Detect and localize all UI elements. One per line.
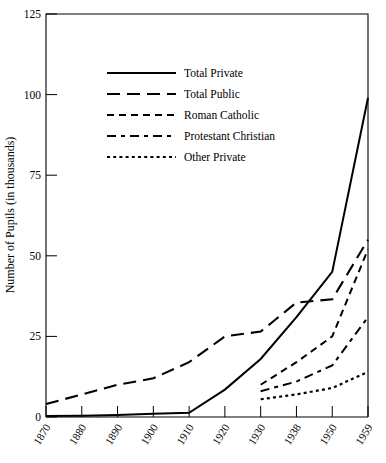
x-axis-ticks: 1870188018901900191019201930193819501959	[31, 406, 375, 447]
y-axis-ticks: 0255075100125	[24, 8, 57, 423]
legend-label-total-private: Total Private	[184, 67, 243, 79]
y-tick-label-50: 50	[30, 250, 42, 262]
x-tick-label-1900: 1900	[138, 421, 160, 446]
x-tick-label-1959: 1959	[353, 421, 375, 446]
legend-label-total-public: Total Public	[184, 88, 240, 100]
legend-label-other-private: Other Private	[184, 151, 246, 163]
x-tick-label-1910: 1910	[174, 421, 196, 446]
x-tick-label-1920: 1920	[210, 421, 232, 446]
series-line-total-private	[46, 98, 368, 416]
y-tick-label-25: 25	[30, 330, 42, 342]
series-line-roman-catholic	[261, 249, 368, 384]
chart-container: 0255075100125 18701880189019001910192019…	[0, 0, 386, 463]
x-tick-label-1870: 1870	[31, 421, 53, 446]
x-tick-label-1930: 1930	[246, 421, 268, 446]
series-line-other-private	[261, 372, 368, 399]
x-tick-label-1938: 1938	[281, 421, 303, 446]
series-line-total-public	[46, 240, 368, 404]
y-tick-label-100: 100	[24, 89, 42, 101]
y-tick-label-125: 125	[24, 8, 42, 20]
x-tick-label-1880: 1880	[67, 421, 89, 446]
y-tick-label-0: 0	[35, 411, 41, 423]
x-tick-label-1950: 1950	[317, 421, 339, 446]
legend-label-roman-catholic: Roman Catholic	[184, 109, 259, 121]
x-tick-label-1890: 1890	[102, 421, 124, 446]
y-tick-label-75: 75	[30, 169, 42, 181]
line-chart: 0255075100125 18701880189019001910192019…	[0, 0, 386, 463]
legend-label-protestant-christian: Protestant Christian	[184, 130, 275, 142]
chart-legend: Total PrivateTotal PublicRoman CatholicP…	[107, 67, 275, 163]
y-axis-title: Number of Pupils (in thousands)	[3, 137, 17, 294]
data-series-group	[46, 98, 368, 416]
